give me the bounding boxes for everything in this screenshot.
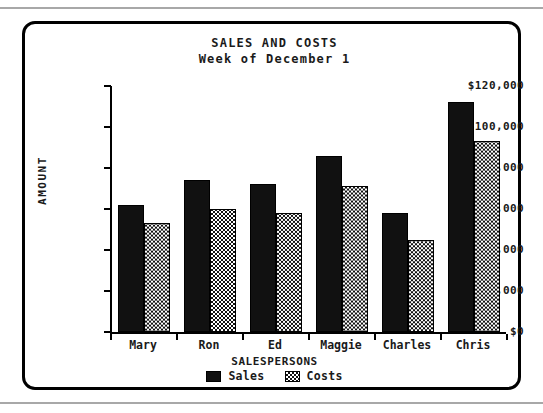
- chart-legend: Sales Costs: [25, 369, 524, 383]
- category-label-ed: Ed: [242, 338, 308, 352]
- y-axis-title: AMOUNT: [36, 141, 49, 221]
- category-label-ron: Ron: [176, 338, 242, 352]
- legend-item-sales[interactable]: Sales: [206, 369, 264, 383]
- bar-ed-costs: [276, 213, 302, 332]
- legend-label-sales: Sales: [228, 369, 264, 383]
- y-tick-mark: [104, 290, 111, 292]
- y-tick-label: $120,000: [446, 79, 524, 92]
- y-tick-mark: [104, 249, 111, 251]
- y-tick-mark: [104, 208, 111, 210]
- category-label-charles: Charles: [374, 338, 440, 352]
- y-tick-mark: [104, 167, 111, 169]
- bar-ron-sales: [184, 180, 210, 332]
- bar-maggie-costs: [342, 186, 368, 332]
- category-label-maggie: Maggie: [308, 338, 374, 352]
- bar-charles-costs: [408, 240, 434, 332]
- x-tick-mark: [506, 334, 508, 340]
- y-tick-mark: [104, 126, 111, 128]
- bar-mary-sales: [118, 205, 144, 332]
- y-tick-mark: [104, 85, 111, 87]
- bar-chris-sales: [448, 102, 474, 332]
- legend-item-costs[interactable]: Costs: [285, 369, 343, 383]
- page-rule-bottom: [0, 402, 543, 404]
- y-tick-mark: [104, 331, 111, 333]
- checkered-swatch-icon: [285, 371, 300, 382]
- plot-area: AMOUNT SALESPERSONS $0$20,000$40,000$60,…: [25, 24, 524, 393]
- y-axis-line: [110, 86, 112, 334]
- bar-chris-costs: [474, 141, 500, 332]
- legend-label-costs: Costs: [307, 369, 343, 383]
- bar-ed-sales: [250, 184, 276, 332]
- bar-mary-costs: [144, 223, 170, 332]
- category-label-mary: Mary: [110, 338, 176, 352]
- chart-figure-frame: SALES AND COSTS Week of December 1 AMOUN…: [22, 21, 521, 390]
- bar-maggie-sales: [316, 156, 342, 332]
- solid-black-swatch-icon: [206, 371, 221, 382]
- category-label-chris: Chris: [440, 338, 506, 352]
- x-axis-title: SALESPERSONS: [25, 355, 524, 368]
- page-rule-top: [0, 7, 543, 9]
- bar-charles-sales: [382, 213, 408, 332]
- bar-ron-costs: [210, 209, 236, 332]
